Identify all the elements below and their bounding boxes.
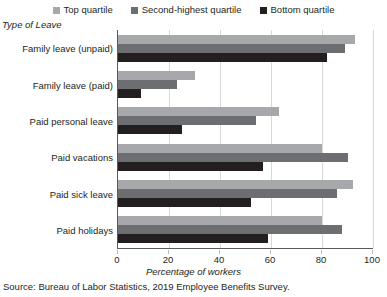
- gridline: [322, 30, 323, 248]
- bar: [118, 189, 337, 198]
- category-label: Paid holidays: [0, 224, 113, 235]
- category-axis-labels: Family leave (unpaid)Family leave (paid)…: [0, 30, 113, 248]
- source-note: Source: Bureau of Labor Statistics, 2019…: [3, 281, 290, 292]
- bar: [118, 35, 355, 44]
- gridline: [220, 30, 221, 248]
- bar: [118, 125, 182, 134]
- bar: [118, 53, 327, 62]
- x-axis-line: [117, 248, 373, 249]
- category-label: Paid sick leave: [0, 188, 113, 199]
- legend-label: Bottom quartile: [271, 5, 335, 15]
- legend-item-bottom-quartile: Bottom quartile: [260, 5, 335, 15]
- plot-area: [117, 30, 373, 248]
- category-label: Paid vacations: [0, 152, 113, 163]
- x-axis-tick-label: 100: [364, 254, 380, 265]
- category-label: Family leave (unpaid): [0, 43, 113, 54]
- category-label: Family leave (paid): [0, 79, 113, 90]
- bar: [118, 44, 345, 53]
- category-label: Paid personal leave: [0, 115, 113, 126]
- x-axis-tick-label: 80: [316, 254, 327, 265]
- legend-item-second-highest-quartile: Second-highest quartile: [131, 5, 242, 15]
- bar: [118, 71, 195, 80]
- bar: [118, 180, 353, 189]
- bar: [118, 198, 251, 207]
- y-axis-title: Type of Leave: [2, 19, 62, 30]
- bar: [118, 216, 322, 225]
- gridline: [169, 30, 170, 248]
- legend-label: Second-highest quartile: [142, 5, 242, 15]
- bar: [118, 144, 322, 153]
- x-axis-tick-label: 0: [114, 254, 119, 265]
- gridline: [373, 30, 374, 248]
- legend-swatch-icon: [53, 7, 60, 14]
- gridline: [271, 30, 272, 248]
- bar: [118, 80, 177, 89]
- bar: [118, 225, 342, 234]
- bar: [118, 234, 268, 243]
- legend-swatch-icon: [131, 7, 138, 14]
- legend-swatch-icon: [260, 7, 267, 14]
- x-axis-tick-label: 60: [265, 254, 276, 265]
- bar: [118, 107, 279, 116]
- x-axis-tick-label: 20: [163, 254, 174, 265]
- x-axis-title: Percentage of workers: [0, 266, 387, 277]
- bar: [118, 162, 263, 171]
- legend-label: Top quartile: [64, 5, 113, 15]
- bar: [118, 116, 256, 125]
- chart-legend: Top quartile Second-highest quartile Bot…: [0, 2, 387, 18]
- bar: [118, 153, 348, 162]
- x-axis-tick-label: 40: [214, 254, 225, 265]
- bar-chart: Family leave (unpaid)Family leave (paid)…: [0, 30, 387, 262]
- bar: [118, 89, 141, 98]
- legend-item-top-quartile: Top quartile: [53, 5, 113, 15]
